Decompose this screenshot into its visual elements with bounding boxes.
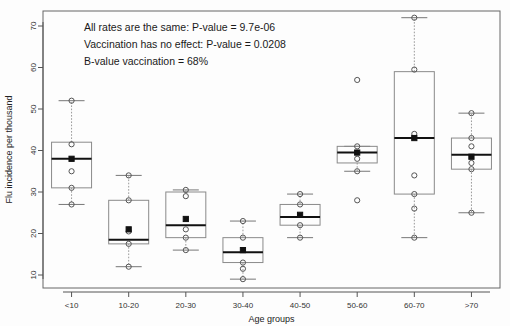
- boxplot-group: [52, 98, 92, 207]
- boxplot-group: [223, 218, 263, 281]
- data-point: [469, 144, 474, 149]
- mean-point: [297, 212, 302, 217]
- mean-point: [469, 154, 474, 159]
- plot-frame: [43, 11, 500, 288]
- y-axis-tick-label: 30: [29, 187, 38, 196]
- boxplot-group: [451, 111, 491, 216]
- box-body: [394, 72, 434, 194]
- x-axis-tick-label: 50-60: [347, 301, 368, 310]
- mean-point: [240, 248, 245, 253]
- mean-point: [183, 216, 188, 221]
- y-axis-tick-label: 60: [29, 63, 38, 72]
- boxplot-group: [394, 15, 434, 240]
- mean-point: [126, 227, 131, 232]
- mean-point: [69, 156, 74, 161]
- x-axis-title: Age groups: [248, 314, 295, 324]
- x-axis-tick-label: 20-30: [176, 301, 197, 310]
- y-axis-tick-label: 40: [29, 146, 38, 155]
- boxplot-group: [280, 191, 320, 240]
- boxplot-svg: 10203040506070Flu incidence per thousand…: [0, 0, 510, 326]
- x-axis-tick-label: 40-50: [290, 301, 311, 310]
- data-point: [183, 194, 188, 199]
- x-axis-tick-label: 60-70: [404, 301, 425, 310]
- x-axis-tick-label: 30-40: [233, 301, 254, 310]
- outlier-point: [355, 77, 360, 82]
- data-point: [183, 227, 188, 232]
- boxplot-group: [166, 187, 206, 252]
- data-point: [412, 173, 417, 178]
- box-body: [109, 200, 149, 244]
- boxplot-group: [337, 77, 377, 203]
- box-body: [451, 138, 491, 169]
- outlier-point: [355, 198, 360, 203]
- y-axis-tick-label: 20: [29, 229, 38, 238]
- y-axis-tick-label: 70: [29, 21, 38, 30]
- boxplot-group: [109, 173, 149, 270]
- mean-point: [355, 150, 360, 155]
- mean-point: [412, 135, 417, 140]
- y-axis-title: Flu incidence per thousand: [4, 95, 14, 203]
- annotation-line: Vaccination has no effect: P-value = 0.0…: [84, 38, 286, 50]
- x-axis-tick-label: <10: [65, 301, 79, 310]
- annotation-line: All rates are the same: P-value = 9.7e-0…: [84, 21, 275, 33]
- y-axis-tick-label: 10: [29, 270, 38, 279]
- annotation-line: B-value vaccination = 68%: [84, 55, 208, 67]
- boxplot-figure: 10203040506070Flu incidence per thousand…: [0, 0, 510, 326]
- data-point: [69, 169, 74, 174]
- data-point: [355, 156, 360, 161]
- x-axis-tick-label: 10-20: [118, 301, 139, 310]
- x-axis-tick-label: >70: [465, 301, 479, 310]
- data-point: [469, 160, 474, 165]
- y-axis-tick-label: 50: [29, 104, 38, 113]
- box-body: [52, 142, 92, 188]
